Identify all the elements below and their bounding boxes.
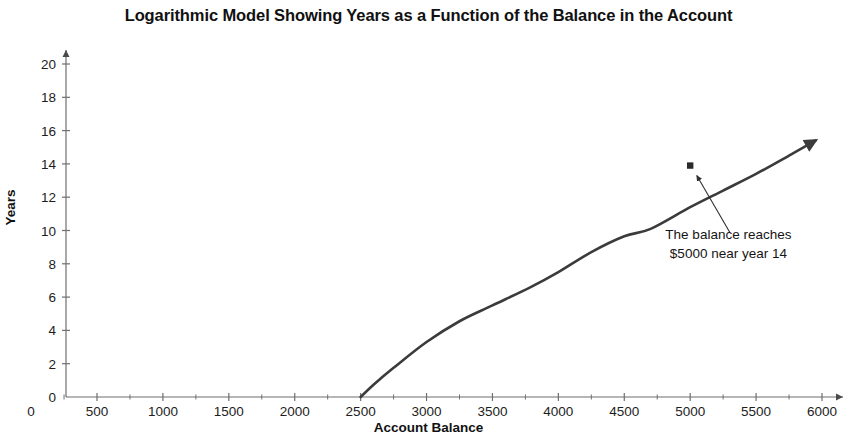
y-tick-label: 8	[48, 257, 56, 272]
x-tick-label: 2500	[346, 404, 376, 419]
annotation-arrow	[697, 176, 730, 233]
y-tick-label: 14	[41, 157, 57, 172]
y-tick-label: 4	[48, 323, 56, 338]
y-tick-label: 16	[41, 124, 56, 139]
x-tick-label: 6000	[807, 404, 837, 419]
x-tick-label: 500	[86, 404, 109, 419]
y-tick-label: 20	[41, 57, 56, 72]
y-tick-label: 10	[41, 224, 56, 239]
y-tick-label: 6	[48, 290, 56, 305]
x-tick-label: 4000	[543, 404, 573, 419]
logarithmic-model-chart: Logarithmic Model Showing Years as a Fun…	[0, 0, 857, 440]
annotation-text-line: $5000 near year 14	[670, 246, 788, 261]
x-tick-label: 1500	[214, 404, 244, 419]
x-tick-label: 4500	[609, 404, 639, 419]
y-axis-title: Years	[3, 178, 18, 238]
data-point-marker	[687, 162, 693, 168]
y-tick-label: 18	[41, 90, 56, 105]
x-tick-label: 5500	[741, 404, 771, 419]
x-axis-title: Account Balance	[0, 420, 857, 435]
x-tick-label: 2000	[280, 404, 310, 419]
data-series-group	[361, 141, 816, 397]
x-tick-label: 0	[27, 404, 35, 419]
chart-plot-area: 0500100015002000250030003500400045005000…	[0, 0, 857, 440]
y-tick-label: 2	[48, 357, 56, 372]
series-curve	[361, 141, 816, 397]
x-tick-label: 3500	[477, 404, 507, 419]
x-tick-label: 1000	[148, 404, 178, 419]
y-tick-label: 0	[48, 390, 56, 405]
data-point-markers	[687, 162, 693, 168]
annotation-text-line: The balance reaches	[665, 227, 791, 242]
x-tick-label: 3000	[412, 404, 442, 419]
x-tick-label: 5000	[675, 404, 705, 419]
y-tick-label: 12	[41, 190, 56, 205]
